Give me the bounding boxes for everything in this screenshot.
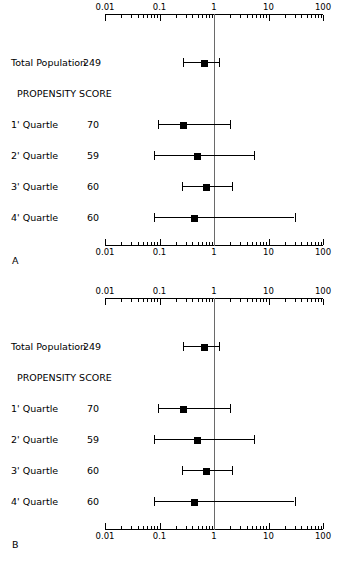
axis-tick-minor-a [121,15,122,18]
axis-tick-minor-b [131,299,132,302]
axis-tick-minor-a [318,15,319,18]
axis-tick-minor-a [260,242,261,245]
axis-tick-minor-a [315,15,316,18]
axis-tick-minor-b [247,526,248,529]
axis-tick-minor-a [263,15,264,18]
point-estimate-marker [194,437,201,444]
axis-tick-minor-b [240,526,241,529]
row-label: 4' Quartle [11,211,81,225]
axis-tick-minor-a [192,15,193,18]
axis-tick-minor-a [230,242,231,245]
axis-tick-major-b [269,299,270,305]
confidence-interval-cap [154,213,155,222]
axis-tick-minor-a [209,242,210,245]
confidence-interval-cap [295,213,296,222]
axis-tick-minor-b [176,299,177,302]
axis-tick-minor-a [295,242,296,245]
axis-tick-minor-b [147,526,148,529]
axis-tick-label-b: 0.1 [145,532,175,541]
plot-area-a: 0.010.010.10.1111010100100Total Populati… [105,14,323,246]
axis-tick-minor-a [266,242,267,245]
axis-tick-label-a: 0.01 [90,248,120,257]
axis-tick-minor-b [138,526,139,529]
axis-tick-minor-a [151,15,152,18]
axis-tick-minor-b [157,299,158,302]
axis-tick-minor-a [176,242,177,245]
axis-tick-minor-a [154,242,155,245]
axis-tick-minor-a [202,15,203,18]
axis-tick-minor-b [260,299,261,302]
axis-tick-major-b [160,299,161,305]
figure-root: 0.010.010.10.1111010100100Total Populati… [0,0,360,574]
axis-tick-minor-b [198,526,199,529]
axis-tick-minor-b [295,526,296,529]
axis-tick-minor-a [311,15,312,18]
confidence-interval-cap [158,120,159,129]
axis-tick-minor-b [121,299,122,302]
axis-tick-minor-a [176,15,177,18]
axis-tick-minor-b [285,299,286,302]
forest-section-header-a: PROPENSITY SCORE [105,87,323,101]
axis-tick-minor-a [252,15,253,18]
point-estimate-marker [203,184,210,191]
axis-tick-major-a [269,15,270,21]
row-count: 70 [83,118,99,132]
axis-tick-major-b [323,523,324,529]
axis-tick-major-a [323,239,324,245]
axis-tick-minor-a [285,242,286,245]
row-count: 70 [83,402,99,416]
row-count: 60 [83,180,99,194]
axis-tick-minor-a [147,15,148,18]
confidence-interval-line [154,501,294,502]
row-count: 59 [83,433,99,447]
axis-tick-minor-a [202,242,203,245]
forest-row-b: 3' Quartle60 [105,464,323,478]
axis-tick-minor-a [307,15,308,18]
axis-tick-minor-a [252,242,253,245]
confidence-interval-cap [230,120,231,129]
axis-tick-major-a [105,239,106,245]
forest-section-header-b: PROPENSITY SCORE [105,371,323,385]
axis-tick-minor-b [147,299,148,302]
axis-tick-minor-a [240,15,241,18]
confidence-interval-cap [219,58,220,67]
axis-tick-minor-a [138,15,139,18]
axis-tick-minor-b [266,526,267,529]
confidence-interval-line [158,124,231,125]
axis-tick-minor-b [256,299,257,302]
axis-tick-minor-a [307,242,308,245]
axis-tick-minor-a [154,15,155,18]
row-count: 59 [83,149,99,163]
point-estimate-marker [201,60,208,67]
axis-tick-minor-b [202,526,203,529]
confidence-interval-cap [158,404,159,413]
axis-tick-minor-b [252,526,253,529]
axis-tick-minor-b [121,526,122,529]
confidence-interval-cap [219,342,220,351]
forest-plot-panel-b: 0.010.010.10.1111010100100Total Populati… [0,284,360,574]
axis-tick-minor-b [315,299,316,302]
axis-tick-minor-a [131,242,132,245]
axis-tick-minor-b [318,526,319,529]
confidence-interval-cap [154,435,155,444]
forest-row-b: 2' Quartle59 [105,433,323,447]
axis-tick-minor-b [192,526,193,529]
confidence-interval-cap [154,497,155,506]
axis-tick-label-a: 1 [199,3,229,12]
axis-tick-label-a: 0.01 [90,3,120,12]
axis-tick-minor-a [143,15,144,18]
axis-tick-minor-a [206,15,207,18]
axis-tick-minor-a [321,242,322,245]
axis-tick-minor-b [202,299,203,302]
axis-tick-minor-a [157,15,158,18]
axis-tick-major-b [323,299,324,305]
axis-tick-minor-b [295,299,296,302]
forest-row-a: 2' Quartle59 [105,149,323,163]
point-estimate-marker [180,122,187,129]
confidence-interval-cap [154,151,155,160]
axis-tick-minor-b [307,526,308,529]
axis-tick-minor-b [186,299,187,302]
axis-tick-label-a: 10 [254,248,284,257]
axis-tick-minor-b [154,299,155,302]
axis-tick-minor-a [301,242,302,245]
